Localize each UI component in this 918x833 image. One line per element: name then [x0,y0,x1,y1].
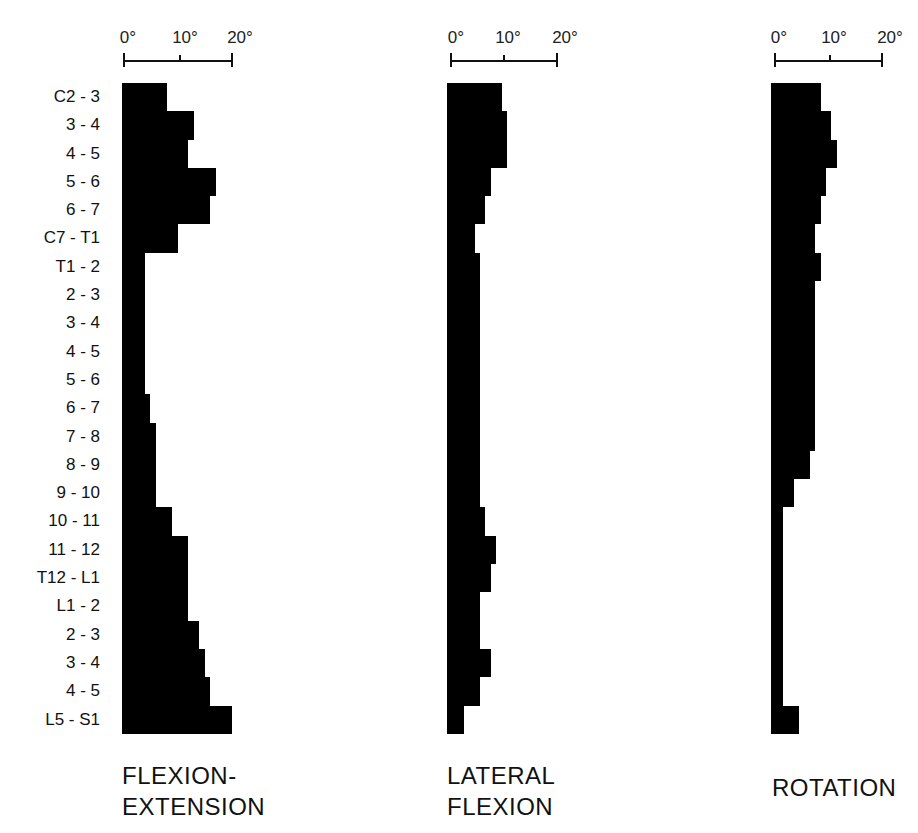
bar-10-11 [771,507,783,535]
bar-3-4 [122,649,205,677]
bar-8-9 [122,451,156,479]
bars-flexion-extension [122,83,232,734]
title-line-2: FLEXION [447,791,555,822]
bar-6-7 [122,394,150,422]
tick-label-20: 20° [227,28,253,48]
bar-11-12 [122,536,188,564]
bar-l1-2 [771,592,783,620]
tick-20 [881,53,883,67]
bar-4-5 [771,677,783,705]
bar-3-4 [771,309,815,337]
row-label: 3 - 4 [0,309,100,337]
bar-6-7 [771,196,821,224]
bar-3-4 [771,649,783,677]
bar-5-6 [771,168,826,196]
title-line-2: EXTENSION [122,791,265,822]
row-label: L1 - 2 [0,592,100,620]
bar-t1-2 [447,253,480,281]
row-label: L5 - S1 [0,706,100,734]
tick-label-0: 0° [771,28,787,48]
tick-label-10: 10° [172,28,198,48]
row-label: 4 - 5 [0,677,100,705]
bar-2-3 [771,621,783,649]
bar-6-7 [122,196,210,224]
bar-3-4 [447,111,507,139]
bar-4-5 [771,140,837,168]
bar-t1-2 [771,253,821,281]
bar-11-12 [771,536,783,564]
bar-5-6 [122,366,145,394]
bar-4-5 [122,140,188,168]
tick-label-20: 20° [552,28,578,48]
bar-c2-3 [771,83,821,111]
bar-4-5 [771,338,815,366]
tick-label-10: 10° [821,28,847,48]
bar-9-10 [122,479,156,507]
panel-title: ROTATION [772,772,896,803]
row-label: 4 - 5 [0,140,100,168]
bar-t1-2 [122,253,145,281]
tick-10 [503,55,505,61]
bar-10-11 [122,507,172,535]
row-label: 7 - 8 [0,423,100,451]
row-label: 10 - 11 [0,507,100,535]
bar-2-3 [447,621,480,649]
bar-l5-s1 [447,706,464,734]
row-label: C2 - 3 [0,83,100,111]
row-label: 3 - 4 [0,649,100,677]
tick-label-0: 0° [120,28,136,48]
row-label: 11 - 12 [0,536,100,564]
bar-4-5 [447,338,480,366]
row-label: 2 - 3 [0,281,100,309]
row-label: 4 - 5 [0,338,100,366]
bar-4-5 [122,677,210,705]
bar-3-4 [771,111,831,139]
bar-c7-t1 [122,224,178,252]
bar-3-4 [122,111,194,139]
title-line-1: LATERAL [447,760,555,791]
tick-0 [450,53,452,67]
bars-lateral-flexion [447,83,507,734]
bar-10-11 [447,507,485,535]
tick-label-10: 10° [495,28,521,48]
panel-title: FLEXION- EXTENSION [122,760,265,822]
bar-6-7 [447,196,485,224]
bar-2-3 [771,281,815,309]
row-label: 2 - 3 [0,621,100,649]
bar-7-8 [771,423,815,451]
row-label: 6 - 7 [0,394,100,422]
bar-t12-l1 [771,564,783,592]
row-label: 5 - 6 [0,366,100,394]
bar-5-6 [122,168,216,196]
row-label: C7 - T1 [0,224,100,252]
bar-l1-2 [122,592,188,620]
row-label: 8 - 9 [0,451,100,479]
row-label: T12 - L1 [0,564,100,592]
figure: C2 - 33 - 44 - 55 - 66 - 7C7 - T1T1 - 22… [0,0,918,833]
bar-8-9 [771,451,810,479]
bar-c7-t1 [771,224,815,252]
bar-3-4 [122,309,145,337]
tick-10 [829,55,831,61]
bar-l5-s1 [771,706,799,734]
bar-3-4 [447,649,491,677]
tick-0 [123,53,125,67]
row-label: 6 - 7 [0,196,100,224]
row-label: 9 - 10 [0,479,100,507]
vertebral-level-labels: C2 - 33 - 44 - 55 - 66 - 7C7 - T1T1 - 22… [0,83,100,734]
bars-rotation [771,83,837,734]
bar-7-8 [447,423,480,451]
panel-title: LATERAL FLEXION [447,760,555,822]
bar-3-4 [447,309,480,337]
bar-9-10 [771,479,794,507]
bar-t12-l1 [122,564,188,592]
bar-4-5 [122,338,145,366]
bar-l5-s1 [122,706,232,734]
tick-10 [179,55,181,61]
row-label: 5 - 6 [0,168,100,196]
bar-2-3 [122,281,145,309]
bar-l1-2 [447,592,480,620]
bar-7-8 [122,423,156,451]
tick-label-20: 20° [877,28,903,48]
bar-5-6 [447,168,491,196]
